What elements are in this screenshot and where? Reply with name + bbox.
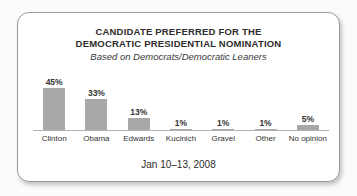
category-label-clinton: Clinton [33, 134, 75, 143]
chart-title-line1: CANDIDATE PREFERRED FOR THE [18, 26, 339, 38]
bar-group-edwards: 13% [118, 107, 160, 130]
bar-group-gravel: 1% [202, 118, 244, 131]
bar [85, 99, 107, 130]
bar-value-label: 33% [88, 88, 105, 98]
title-block: CANDIDATE PREFERRED FOR THE DEMOCRATIC P… [18, 26, 339, 63]
bar-group-clinton: 45% [33, 77, 75, 130]
bar-group-kucinich: 1% [160, 118, 202, 131]
bar [43, 88, 65, 130]
bar-group-other: 1% [244, 118, 286, 131]
bars-row: 45%33%13%1%1%1%5% [33, 77, 329, 131]
chart-subtitle: Based on Democrats/Democratic Leaners [18, 51, 339, 63]
category-label-no-opinion: No opinion [287, 134, 329, 143]
category-label-obama: Obama [75, 134, 117, 143]
category-label-other: Other [244, 134, 286, 143]
bar-value-label: 1% [217, 118, 229, 128]
bar-chart: 45%33%13%1%1%1%5% ClintonObamaEdwardsKuc… [33, 77, 329, 143]
chart-title-line2: DEMOCRATIC PRESIDENTIAL NOMINATION [18, 38, 339, 50]
bar-value-label: 45% [46, 77, 63, 87]
bar-group-no-opinion: 5% [287, 114, 329, 130]
category-label-kucinich: Kucinich [160, 134, 202, 143]
bar-group-obama: 33% [75, 88, 117, 130]
bar-value-label: 5% [302, 114, 314, 124]
poll-chart-card: CANDIDATE PREFERRED FOR THE DEMOCRATIC P… [17, 12, 340, 182]
bar [255, 129, 277, 131]
category-labels-row: ClintonObamaEdwardsKucinichGravelOtherNo… [33, 134, 329, 143]
survey-date: Jan 10–13, 2008 [18, 159, 339, 170]
bar [128, 118, 150, 130]
bar-value-label: 1% [259, 118, 271, 128]
bar [297, 125, 319, 130]
category-label-edwards: Edwards [118, 134, 160, 143]
bar-value-label: 13% [130, 107, 147, 117]
bar [212, 129, 234, 131]
bar [170, 129, 192, 131]
category-label-gravel: Gravel [202, 134, 244, 143]
bar-value-label: 1% [175, 118, 187, 128]
